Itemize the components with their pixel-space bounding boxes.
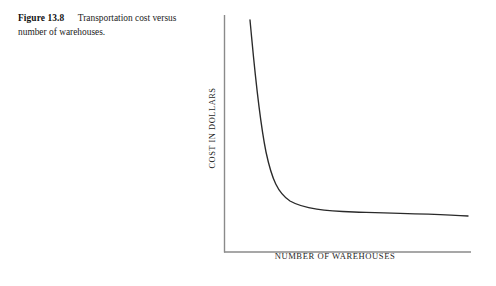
chart-plot-area [196,0,496,286]
y-axis-title: COST IN DOLLARS [208,68,217,188]
figure-caption: Figure 13.8 Transportation cost versus n… [18,12,196,39]
figure-screenshot: Figure 13.8 Transportation cost versus n… [0,0,496,286]
x-axis-title: NUMBER OF WAREHOUSES [196,251,474,261]
figure-number-label: Figure 13.8 [18,13,64,23]
cost-curve-line [250,20,468,216]
chart-figure: COST IN DOLLARS NUMBER OF WAREHOUSES [196,0,496,286]
